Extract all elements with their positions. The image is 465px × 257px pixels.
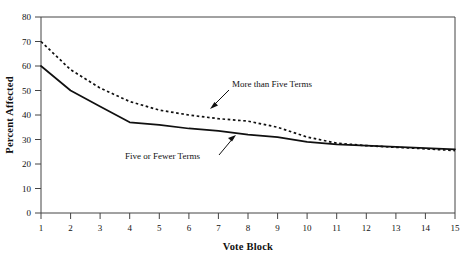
x-tick-label-15: 15	[451, 223, 461, 233]
x-axis-title: Vote Block	[223, 241, 273, 252]
annotation-more-than-five-terms: More than Five Terms	[210, 79, 312, 109]
x-tick-label-8: 8	[246, 223, 251, 233]
y-axis-title: Percent Affected	[4, 76, 15, 153]
x-tick-label-6: 6	[187, 223, 192, 233]
x-tick-label-9: 9	[275, 223, 280, 233]
y-tick-label-40: 40	[22, 110, 32, 120]
x-axis-ticks	[41, 213, 455, 219]
y-tick-label-30: 30	[22, 135, 32, 145]
plot-frame	[41, 17, 455, 213]
y-tick-label-10: 10	[22, 184, 32, 194]
annotation-arrowhead-fewer	[228, 135, 236, 142]
x-tick-label-1: 1	[39, 223, 44, 233]
x-tick-label-14: 14	[421, 223, 431, 233]
x-tick-label-10: 10	[303, 223, 313, 233]
annotation-five-or-fewer-terms: Five or Fewer Terms	[125, 135, 236, 161]
y-tick-label-50: 50	[22, 86, 32, 96]
y-tick-label-0: 0	[27, 208, 32, 218]
x-tick-label-7: 7	[216, 223, 221, 233]
x-tick-label-2: 2	[68, 223, 73, 233]
x-tick-label-5: 5	[157, 223, 162, 233]
y-axis-ticks	[35, 17, 41, 213]
y-tick-label-70: 70	[22, 37, 32, 47]
x-tick-label-12: 12	[362, 223, 371, 233]
x-axis-tick-labels: 1 2 3 4 5 6 7 8 9 10 11 12 13 14 15	[39, 223, 460, 233]
annotation-label-five-or-fewer-terms: Five or Fewer Terms	[125, 151, 200, 161]
y-tick-label-80: 80	[22, 12, 32, 22]
annotation-arrowhead-more	[210, 102, 218, 109]
x-tick-label-3: 3	[98, 223, 103, 233]
chart-figure: 0 10 20 30 40 50 60 70 80	[0, 0, 465, 257]
y-tick-label-60: 60	[22, 61, 32, 71]
y-axis-tick-labels: 0 10 20 30 40 50 60 70 80	[22, 12, 32, 218]
x-tick-label-13: 13	[391, 223, 401, 233]
line-chart: 0 10 20 30 40 50 60 70 80	[0, 0, 465, 257]
x-tick-label-4: 4	[127, 223, 132, 233]
annotation-label-more-than-five-terms: More than Five Terms	[232, 79, 312, 89]
y-tick-label-20: 20	[22, 159, 32, 169]
x-tick-label-11: 11	[332, 223, 341, 233]
